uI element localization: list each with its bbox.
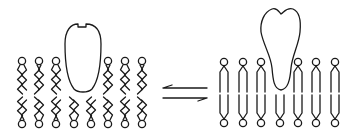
lipid-head-icon [294, 119, 301, 126]
lipid-head-icon [294, 58, 301, 65]
lipid-head-icon [35, 120, 42, 127]
lipid-head-icon [104, 57, 111, 64]
lipid-top-ordered [257, 58, 265, 92]
lipid-head-icon [52, 120, 59, 127]
lipid-head-icon [138, 120, 145, 127]
lipid-head-icon [35, 57, 42, 64]
protein-left-icon [65, 24, 101, 92]
lipid-bottom-disordered [104, 97, 113, 128]
bottom-leaflet-right [220, 95, 339, 127]
lipid-top-disordered [35, 57, 44, 94]
lipid-head-icon [121, 57, 128, 64]
lipid-head-icon [220, 119, 227, 126]
lipid-head-icon [138, 57, 145, 64]
right-panel-ordered-bilayer [220, 9, 339, 127]
lipid-top-ordered [312, 58, 320, 92]
lipid-head-icon [220, 58, 227, 65]
equilibrium-arrows [163, 85, 207, 101]
lipid-head-icon [70, 120, 77, 127]
lipid-top-disordered [52, 57, 61, 94]
lipid-top-disordered [104, 57, 113, 94]
lipid-head-icon [257, 119, 264, 126]
arrow-left-icon [163, 85, 207, 88]
top-leaflet-right [220, 58, 339, 92]
lipid-bottom-ordered [331, 95, 339, 127]
lipid-head-icon [331, 119, 338, 126]
lipid-bottom-ordered [312, 95, 320, 127]
lipid-bottom-disordered [87, 97, 96, 128]
lipid-top-ordered [294, 58, 302, 92]
lipid-bottom-disordered [18, 97, 27, 128]
lipid-head-icon [104, 120, 111, 127]
lipid-bottom-disordered [70, 97, 79, 128]
lipid-top-ordered [239, 58, 247, 92]
lipid-head-icon [239, 58, 246, 65]
lipid-bottom-disordered [121, 97, 130, 128]
lipid-top-ordered [331, 58, 339, 92]
lipid-head-icon [312, 119, 319, 126]
lipid-bottom-ordered [276, 95, 284, 127]
lipid-top-disordered [138, 57, 147, 94]
lipid-head-icon [276, 119, 283, 126]
lipid-head-icon [312, 58, 319, 65]
membrane-protein-diagram [0, 0, 352, 139]
lipid-head-icon [18, 57, 25, 64]
lipid-bottom-ordered [257, 95, 265, 127]
lipid-top-disordered [121, 57, 130, 94]
lipid-bottom-disordered [138, 97, 147, 128]
lipid-bottom-disordered [35, 97, 44, 128]
lipid-bottom-ordered [239, 95, 247, 127]
lipid-head-icon [239, 119, 246, 126]
lipid-head-icon [331, 58, 338, 65]
top-leaflet-left [18, 57, 147, 94]
lipid-head-icon [257, 58, 264, 65]
lipid-bottom-disordered [52, 97, 61, 128]
lipid-head-icon [121, 120, 128, 127]
lipid-head-icon [18, 120, 25, 127]
lipid-bottom-ordered [294, 95, 302, 127]
lipid-top-disordered [18, 57, 27, 94]
left-panel-disordered-bilayer [18, 24, 147, 128]
arrow-right-icon [163, 98, 207, 101]
lipid-bottom-ordered [220, 95, 228, 127]
lipid-head-icon [52, 57, 59, 64]
lipid-head-icon [87, 120, 94, 127]
lipid-top-ordered [220, 58, 228, 92]
bottom-leaflet-left [18, 97, 147, 128]
